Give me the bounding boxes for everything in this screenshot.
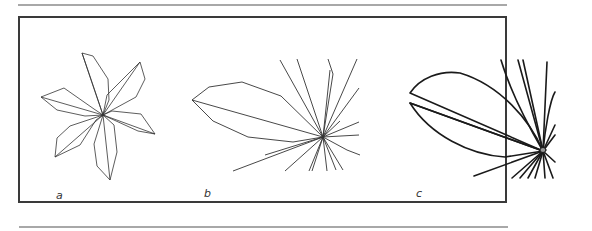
figure-drawing <box>0 0 592 231</box>
panel-c-leaf-bold <box>410 60 555 178</box>
panel-label-c: c <box>416 188 422 199</box>
bottom-rule <box>19 226 508 228</box>
panel-a-flower <box>41 53 155 180</box>
panel-label-b: b <box>204 188 211 199</box>
panel-label-a: a <box>56 190 63 201</box>
panel-b-leaf-thin <box>192 59 360 171</box>
